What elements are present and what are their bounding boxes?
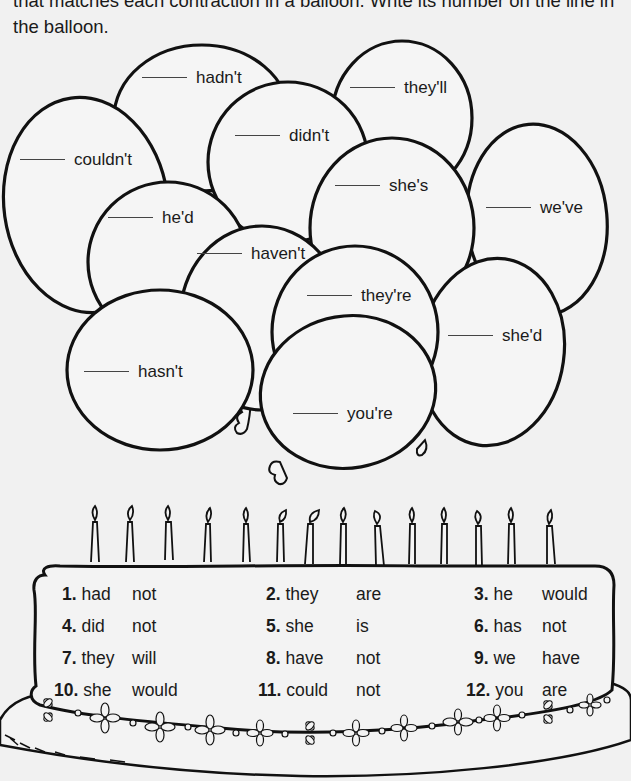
word-pair-11: 11. couldnot [258,680,328,701]
candle-icon [243,508,250,562]
answer-blank[interactable] [108,216,153,218]
word-pair-10: 10. shewould [54,680,111,701]
balloon-hasnt: hasn't [84,362,183,382]
dot-icon [75,710,81,716]
answer-blank[interactable] [448,334,493,336]
contraction-label: couldn't [74,150,132,170]
word-pair-6: 6. hasnot [474,616,522,637]
contraction-label: hasn't [138,362,183,382]
candle-icon [441,508,447,564]
dot-icon [233,730,239,736]
balloon-havent: haven't [197,244,305,264]
candles [91,506,555,566]
answer-blank[interactable] [293,412,338,414]
dot-icon [476,717,482,723]
dot-icon [282,731,288,737]
word-pair-8: 8. havenot [266,648,323,669]
dot-icon [567,707,573,713]
dot-icon [185,724,191,730]
balloon-shes: she's [335,176,428,196]
candle-icon [409,508,415,564]
answer-blank[interactable] [20,158,65,160]
answer-blank[interactable] [235,134,280,136]
dot-icon [379,728,385,734]
balloon-weve: we've [486,198,583,218]
candle-icon [204,508,211,562]
balloon-hed: he'd [108,208,194,228]
candle-icon [126,506,134,562]
balloon-theyll: they'll [350,78,447,98]
contraction-label: hadn't [196,68,242,88]
dot-icon [130,720,136,726]
word-pair-3: 3. hewould [474,584,513,605]
answer-blank[interactable] [142,76,187,78]
word-pair-4: 4. didnot [62,616,105,637]
contraction-label: he'd [162,208,194,228]
contraction-label: you're [347,404,393,424]
contraction-label: we've [540,198,583,218]
contraction-label: didn't [289,126,329,146]
answer-blank[interactable] [486,206,531,208]
word-pair-7: 7. theywill [62,648,115,669]
word-pair-9: 9. wehave [474,648,516,669]
candle-icon [547,510,555,564]
contraction-label: she's [389,176,428,196]
candle-icon [340,508,346,564]
word-pair-2: 2. theyare [266,584,319,605]
contraction-label: she'd [502,326,542,346]
dot-icon [519,712,525,718]
candle-icon [91,506,99,562]
answer-blank[interactable] [84,370,129,372]
contraction-label: they're [361,286,412,306]
balloon-shed: she'd [448,326,542,346]
balloon-youre: you're [293,404,393,424]
answer-blank[interactable] [350,86,395,88]
answer-blank[interactable] [307,294,352,296]
word-pair-12: 12. youare [466,680,523,701]
balloon-hadnt: hadn't [142,68,242,88]
candle-icon [165,506,173,560]
candle-icon [374,511,384,566]
word-pair-1: 1. hadnot [62,584,111,605]
candle-icon [475,511,482,566]
balloon-knot-icon [417,440,427,455]
word-pair-5: 5. sheis [266,616,314,637]
balloon-knot-icon [269,462,287,485]
answer-blank[interactable] [335,184,380,186]
balloon-theyre: they're [307,286,412,306]
contraction-label: they'll [404,78,447,98]
candle-icon [305,510,319,564]
dot-icon [330,730,336,736]
candle-icon [508,508,515,564]
balloon-didnt: didn't [235,126,329,146]
answer-blank[interactable] [197,252,242,254]
contraction-label: haven't [251,244,305,264]
dot-icon [429,723,435,729]
dot-icon [604,697,610,703]
balloon-couldnt: couldn't [20,150,132,170]
candle-icon [277,510,286,562]
